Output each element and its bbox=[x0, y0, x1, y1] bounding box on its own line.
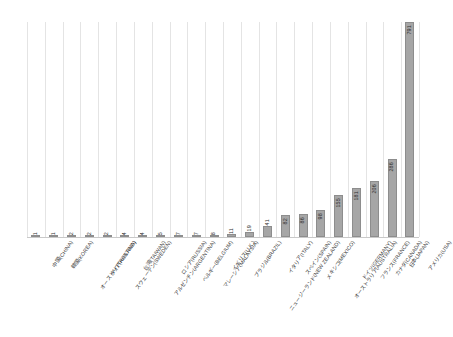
bar-value-label: 7 bbox=[176, 232, 181, 235]
bar-value-label: 4 bbox=[140, 232, 145, 235]
bar-slot: 286 bbox=[383, 22, 401, 237]
bar-value-label: 4 bbox=[122, 232, 127, 235]
bar-value-label: 2 bbox=[104, 232, 109, 235]
bar-slot: 4 bbox=[116, 22, 134, 237]
bar-value-label: 155 bbox=[336, 198, 341, 208]
category-label: イギリス(U.K.) bbox=[232, 240, 257, 272]
bar[interactable]: 791 bbox=[405, 22, 414, 237]
bar-value-label: 1 bbox=[33, 232, 38, 235]
bar-slot: 1 bbox=[45, 22, 63, 237]
bar[interactable]: 86 bbox=[299, 214, 308, 237]
bar-slot: 181 bbox=[348, 22, 366, 237]
category-label: ニュージーランド(NEW ZEALAND) bbox=[288, 240, 341, 312]
category-label: 韓国(KOREA) bbox=[71, 240, 94, 270]
bar-slot: 1 bbox=[27, 22, 45, 237]
bar-slot: 82 bbox=[276, 22, 294, 237]
bar-slot: 7 bbox=[170, 22, 188, 237]
bar[interactable]: 82 bbox=[281, 215, 290, 237]
category-label: スウェーデン(SWEDEN) bbox=[135, 240, 173, 291]
bar[interactable]: 155 bbox=[334, 195, 343, 237]
bar-value-label: 206 bbox=[372, 184, 377, 194]
bar-slot: 2 bbox=[80, 22, 98, 237]
bar-value-label: 8 bbox=[211, 232, 216, 235]
bar-slot: 2 bbox=[63, 22, 81, 237]
bar-value-label: 2 bbox=[69, 232, 74, 235]
bar-slot: 86 bbox=[294, 22, 312, 237]
bar[interactable]: 206 bbox=[370, 181, 379, 237]
bar[interactable]: 41 bbox=[263, 226, 272, 237]
bar-value-label: 86 bbox=[300, 217, 305, 223]
bar-slot: 206 bbox=[365, 22, 383, 237]
bar-slot: 5 bbox=[152, 22, 170, 237]
bar-slot: 8 bbox=[205, 22, 223, 237]
bar-value-label: 286 bbox=[389, 162, 394, 172]
bar-value-label: 791 bbox=[407, 25, 412, 35]
bar-slot: 791 bbox=[401, 22, 419, 237]
bar-value-label: 11 bbox=[229, 228, 234, 234]
gridline bbox=[419, 22, 420, 237]
bar-slot: 2 bbox=[98, 22, 116, 237]
bar-value-label: 2 bbox=[87, 232, 92, 235]
category-labels: 中国(CHINA)韓国(KOREA)オーストリア(AUSTRIA)タイ(THAI… bbox=[27, 238, 419, 337]
bar-slot: 7 bbox=[187, 22, 205, 237]
bar-slot: 19 bbox=[241, 22, 259, 237]
bar-value-label: 7 bbox=[194, 232, 199, 235]
bar[interactable]: 181 bbox=[352, 188, 361, 237]
bar[interactable]: 98 bbox=[316, 210, 325, 237]
bar-slot: 155 bbox=[330, 22, 348, 237]
bar-value-label: 181 bbox=[354, 191, 359, 201]
bar-value-label: 19 bbox=[247, 225, 252, 231]
bar-slot: 11 bbox=[223, 22, 241, 237]
bar-value-label: 1 bbox=[51, 232, 56, 235]
bars-layer: 11222445778111941828698155181206286791 bbox=[27, 22, 419, 237]
bar-value-label: 98 bbox=[318, 213, 323, 219]
bar-slot: 98 bbox=[312, 22, 330, 237]
bar-value-label: 5 bbox=[158, 232, 163, 235]
category-label: アメリカ(USA) bbox=[428, 240, 453, 272]
bar-slot: 4 bbox=[134, 22, 152, 237]
category-label: タイ(THAILAND) bbox=[110, 240, 138, 277]
bar-value-label: 82 bbox=[283, 218, 288, 224]
bar[interactable]: 286 bbox=[388, 159, 397, 237]
bar-slot: 41 bbox=[259, 22, 277, 237]
bar-value-label: 41 bbox=[265, 219, 270, 225]
plot-area: 11222445778111941828698155181206286791 bbox=[27, 22, 419, 237]
